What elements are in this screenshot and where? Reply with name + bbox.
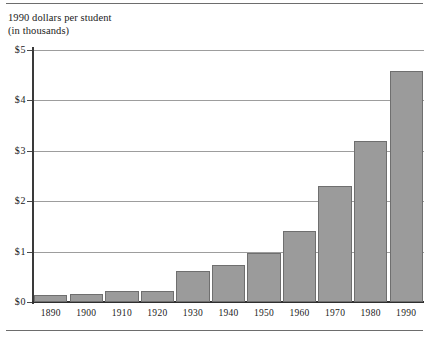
y-axis-tick-label: $5 [0,44,26,55]
chart-figure: 1990 dollars per student (in thousands) … [0,0,429,338]
bar [354,141,387,302]
y-axis-tick-label: $0 [0,296,26,307]
x-axis-tick-label: 1990 [388,308,424,318]
y-axis-tick-label: $1 [0,246,26,257]
x-axis-tick-label: 1950 [246,308,282,318]
x-axis-tick-label: 1930 [175,308,211,318]
y-axis-caption: 1990 dollars per student (in thousands) [8,12,112,37]
bar [70,294,103,302]
bar [390,71,423,302]
x-axis-tick-label: 1900 [69,308,105,318]
bar [318,186,351,302]
y-axis-caption-line-1: 1990 dollars per student [8,12,112,25]
y-axis-tick-label: $4 [0,94,26,105]
y-axis-tick-label: $2 [0,195,26,206]
x-axis-tick-label: 1980 [353,308,389,318]
figure-top-rule [6,3,423,4]
figure-bottom-rule [6,330,423,331]
x-axis-tick-label: 1920 [140,308,176,318]
x-axis-tick-label: 1960 [282,308,318,318]
bar [283,231,316,302]
bar [105,291,138,302]
x-axis-tick-label: 1890 [33,308,69,318]
x-axis-tick-label: 1970 [317,308,353,318]
bar [212,265,245,302]
y-axis-caption-line-2: (in thousands) [8,25,112,38]
bar [247,253,280,302]
x-axis-tick-label: 1940 [211,308,247,318]
x-axis-tick-label: 1910 [104,308,140,318]
bar [176,271,209,302]
bar [141,291,174,302]
bar [34,295,67,302]
y-axis-tick-label: $3 [0,145,26,156]
bar-series [33,50,424,302]
